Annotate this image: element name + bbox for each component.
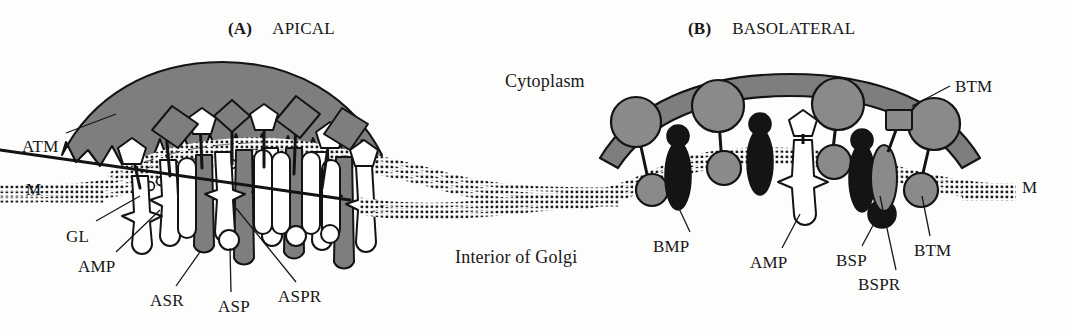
panel-b-title-text: BASOLATERAL [732, 19, 855, 38]
bspr-oval [871, 145, 897, 211]
bmp-label: BMP [653, 238, 690, 255]
btm-top-label: BTM [955, 78, 992, 95]
figure-root: (A) APICAL (B) BASOLATERAL Cytoplasm Int… [0, 0, 1071, 329]
golgi-interior-label: Interior of Golgi [455, 248, 577, 266]
leader-asr [176, 252, 200, 286]
diagram-canvas [0, 0, 1071, 329]
atm-label: ATM [22, 138, 59, 155]
bspr-square-head [886, 110, 912, 130]
panel-b-m-stub [962, 186, 1016, 198]
panel-a-tag: (A) [228, 19, 252, 38]
asp-label: ASP [218, 298, 250, 315]
bspr-label: BSPR [858, 276, 900, 293]
m-left-label: M [26, 181, 41, 198]
panel-b-title: (B) BASOLATERAL [688, 20, 855, 37]
amp-a-label: AMP [78, 258, 115, 275]
panel-a-m-stub [48, 188, 104, 200]
panel-b-tag: (B) [688, 19, 711, 38]
cytoplasm-label: Cytoplasm [505, 72, 585, 90]
aspr-label: ASPR [278, 288, 321, 305]
panel-a-title-text: APICAL [272, 19, 335, 38]
gl-label: GL [66, 228, 89, 245]
leader-amp-b [782, 214, 800, 248]
panel-a-title: (A) APICAL [228, 20, 335, 37]
btm-bottom-label: BTM [914, 242, 951, 259]
bsp-label: BSP [836, 252, 867, 269]
amp-b-label: AMP [750, 254, 787, 271]
asr-label: ASR [150, 292, 184, 309]
m-right-label: M [1022, 179, 1037, 196]
leader-asp [230, 248, 231, 292]
